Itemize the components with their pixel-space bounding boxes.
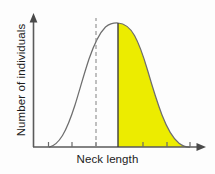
x-axis-label: Neck length [0,153,215,165]
up-arrow-icon [30,13,38,23]
distribution-plot [0,0,215,174]
right-arrow-icon [197,143,207,151]
figure-container: Number of individuals Neck length [0,0,215,174]
shaded-selected-region [118,23,190,147]
y-axis-label: Number of individuals [15,10,27,150]
